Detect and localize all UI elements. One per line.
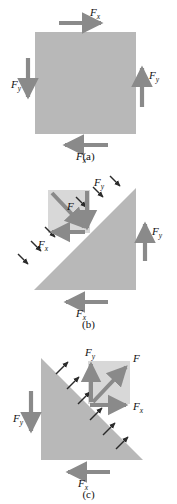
label-right-fy: Fy xyxy=(151,225,163,240)
panel-a: Fx Fy Fy Fx xyxy=(0,0,177,168)
traction-arrow xyxy=(110,176,120,186)
force-diagram-figure: Fx Fy Fy Fx (a) xyxy=(0,0,177,504)
panel-b: F Fy Fx Fy Fx xyxy=(0,168,177,336)
label-inset-fy: Fy xyxy=(84,346,96,361)
traction-arrow xyxy=(67,377,79,389)
label-right-fy: Fy xyxy=(148,69,160,84)
traction-arrow xyxy=(18,254,28,264)
panel-c: F Fy Fx Fy Fx xyxy=(0,336,177,504)
label-top-fx: Fx xyxy=(89,6,101,21)
caption-c: (c) xyxy=(0,488,177,500)
caption-a: (a) xyxy=(0,150,177,162)
traction-arrow xyxy=(56,362,68,374)
square-body xyxy=(35,32,136,134)
label-left-fy: Fy xyxy=(12,412,24,427)
label-resultant-f: F xyxy=(132,352,140,364)
label-inset-fx: Fx xyxy=(37,238,49,253)
label-inset-fx: Fx xyxy=(132,400,144,415)
caption-b: (b) xyxy=(0,318,177,330)
label-resultant-f: F xyxy=(66,200,74,212)
label-left-fy: Fy xyxy=(10,78,22,93)
